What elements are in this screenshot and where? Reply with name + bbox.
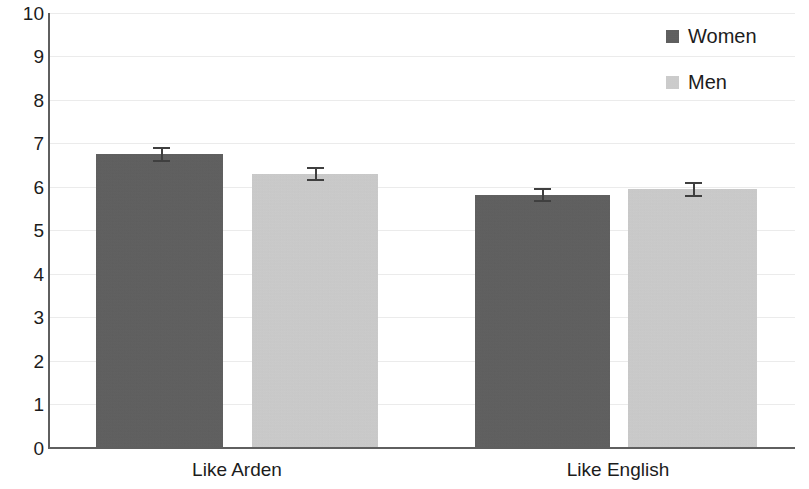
y-tick-label: 1 — [4, 395, 44, 414]
y-axis-line — [48, 13, 50, 449]
y-tick-label: 4 — [4, 265, 44, 284]
x-axis-line — [48, 447, 795, 449]
gridline — [49, 143, 795, 144]
bar-women-like-arden — [96, 154, 223, 448]
y-tick-label: 5 — [4, 221, 44, 240]
legend-entry-men: Men — [666, 72, 727, 92]
y-tick-label: 3 — [4, 308, 44, 327]
bar-men-like-english — [628, 189, 757, 448]
gridline — [49, 56, 795, 57]
gridline — [49, 100, 795, 101]
gridline — [49, 13, 795, 14]
y-tick-label: 0 — [4, 439, 44, 458]
legend-label-women: Women — [688, 26, 757, 46]
y-tick-label: 9 — [4, 47, 44, 66]
legend-label-men: Men — [688, 72, 727, 92]
legend-entry-women: Women — [666, 26, 757, 46]
error-bar-cap-top — [534, 188, 551, 190]
y-tick-label: 7 — [4, 134, 44, 153]
bar-chart: 10 9 8 7 6 5 4 3 2 1 0 — [0, 0, 809, 489]
x-category-label-like-arden: Like Arden — [157, 459, 317, 481]
error-bar-cap-top — [685, 182, 702, 184]
legend-swatch-women-icon — [666, 30, 679, 43]
y-tick-label: 10 — [4, 4, 44, 23]
x-category-label-like-english: Like English — [538, 459, 698, 481]
y-tick-label: 2 — [4, 352, 44, 371]
error-bar-cap-top — [153, 147, 170, 149]
bar-men-like-arden — [252, 174, 378, 448]
bar-women-like-english — [475, 195, 610, 448]
y-tick-label: 6 — [4, 178, 44, 197]
y-axis-tick-labels: 10 9 8 7 6 5 4 3 2 1 0 — [0, 0, 44, 489]
legend-swatch-men-icon — [666, 76, 679, 89]
y-tick-label: 8 — [4, 91, 44, 110]
error-bar-cap-top — [307, 167, 324, 169]
